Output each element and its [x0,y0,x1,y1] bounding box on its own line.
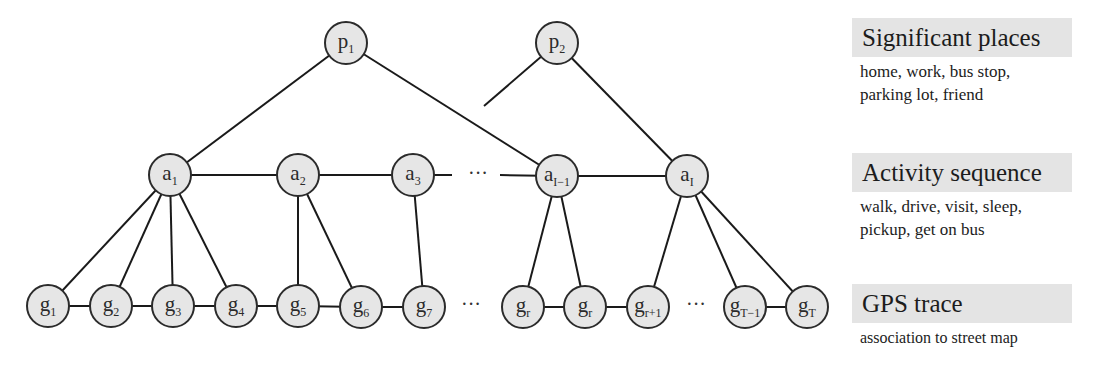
node-gr: gr [502,286,544,328]
legend-title: GPS trace [852,284,1072,323]
legend-line: parking lot, friend [860,83,1072,106]
node-g1: g1 [27,285,69,327]
node-a3: a3 [392,154,434,196]
legend-gps-trace: GPS trace association to street map [852,284,1072,349]
node-g5: g5 [277,285,319,327]
edge-p1-aI-1 [346,43,557,176]
node-a2: a2 [277,154,319,196]
node-gT: gT [786,286,828,328]
legend-title: Significant places [852,18,1072,57]
hierarchical-model-diagram: p1p2a1a2a3aI−1aIg1g2g3g4g5g6g7grgrgr+1gT… [0,0,850,370]
node-p2: p2 [536,22,578,64]
node-aI-1: aI−1 [536,155,578,197]
node-a1: a1 [149,154,191,196]
node-g6: g6 [340,286,382,328]
node-p1: p1 [325,22,367,64]
legend-line: pickup, get on bus [860,218,1072,241]
edge-p2-aI [557,43,687,176]
node-gT-1: gT−1 [724,286,766,328]
legend-description: walk, drive, visit, sleep, pickup, get o… [852,192,1072,241]
ellipsis: ··· [461,293,481,315]
ellipsis: ··· [468,162,488,184]
legend-line: walk, drive, visit, sleep, [860,195,1072,218]
legend-line: association to street map [860,326,1072,349]
legend-title: Activity sequence [852,153,1072,192]
node-gr2: gr [564,286,606,328]
node-g4: g4 [215,285,257,327]
legend-description: home, work, bus stop, parking lot, frien… [852,57,1072,106]
legend-activity-sequence: Activity sequence walk, drive, visit, sl… [852,153,1072,241]
edge-p1-a1 [170,43,346,175]
legend-significant-places: Significant places home, work, bus stop,… [852,18,1072,106]
legend-line: home, work, bus stop, [860,60,1072,83]
ellipsis: ··· [686,293,706,315]
node-g7: g7 [403,286,445,328]
node-gr+1: gr+1 [627,286,669,328]
node-aI: aI [666,155,708,197]
legend-description: association to street map [852,323,1072,349]
node-g3: g3 [152,285,194,327]
node-g2: g2 [90,285,132,327]
graph-nodes: p1p2a1a2a3aI−1aIg1g2g3g4g5g6g7grgrgr+1gT… [27,22,828,328]
